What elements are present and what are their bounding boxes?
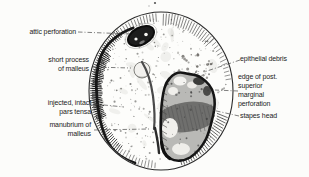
label-epithelial-debris: epithelial debris <box>240 54 287 63</box>
label-manubrium-of-malleus: manubrium of malleus <box>49 120 91 138</box>
figure-canvas: attic perforation short process of malle… <box>0 0 309 177</box>
label-edge-of-post-superior-marginal-perforation: edge of post. superior marginal perforat… <box>238 72 277 108</box>
label-stapes-head: stapes head <box>240 111 277 120</box>
label-short-process-of-malleus: short process of malleus <box>48 55 89 73</box>
ink-speck <box>154 2 156 4</box>
label-injected-intact-pars-tensa: injected, intact pars tensa <box>48 98 91 116</box>
ink-speck <box>148 5 149 6</box>
label-attic-perforation: attic perforation <box>29 27 76 36</box>
